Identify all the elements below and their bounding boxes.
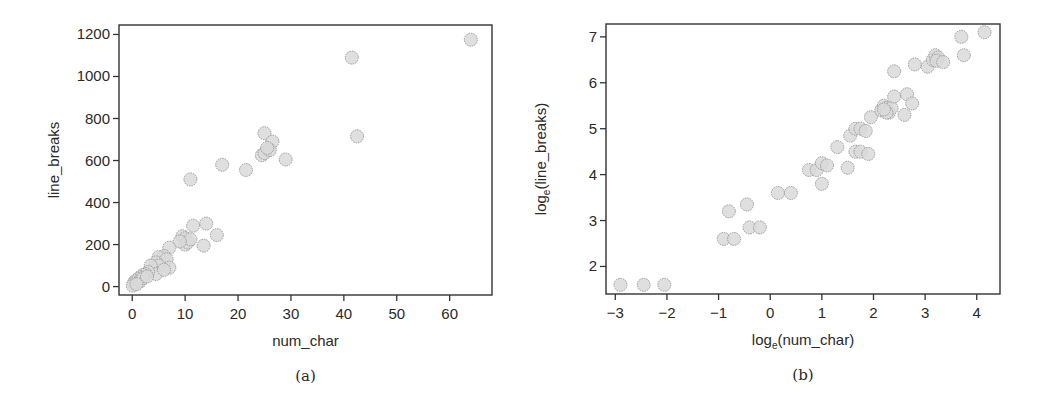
- data-point: [908, 58, 921, 71]
- figure-caption: (b): [792, 366, 813, 384]
- y-tick-label: 2: [589, 257, 597, 274]
- y-axis: 020040060080010001200: [77, 25, 119, 294]
- data-point: [771, 186, 784, 199]
- data-point: [815, 177, 828, 190]
- x-tick-label: 40: [336, 305, 353, 322]
- x-tick-label: 0: [766, 304, 774, 321]
- scatter-plot-a: 0102030405060020040060080010001200num_ch…: [0, 0, 520, 412]
- x-tick-label: 30: [283, 305, 300, 322]
- scatter-panel-a: 0102030405060020040060080010001200num_ch…: [0, 0, 520, 412]
- data-point: [784, 186, 797, 199]
- data-point: [898, 108, 911, 121]
- data-point: [862, 147, 875, 160]
- x-tick-label: 3: [921, 304, 929, 321]
- y-axis: 234567: [589, 28, 606, 275]
- data-point: [753, 221, 766, 234]
- data-point: [888, 90, 901, 103]
- data-point: [937, 56, 950, 69]
- y-axis-label: loge(line_breaks): [532, 103, 552, 215]
- data-point: [130, 278, 143, 291]
- data-point: [888, 65, 901, 78]
- data-point: [728, 232, 741, 245]
- data-point: [351, 130, 364, 143]
- y-tick-label: 600: [85, 152, 110, 169]
- x-tick-label: 0: [128, 305, 136, 322]
- x-tick-label: 1: [818, 304, 826, 321]
- data-point: [345, 51, 358, 64]
- data-point: [187, 219, 200, 232]
- data-point: [722, 205, 735, 218]
- x-tick-label: 4: [973, 304, 981, 321]
- y-tick-label: 7: [589, 28, 597, 45]
- data-point: [614, 278, 627, 291]
- plot-frame: [119, 25, 492, 295]
- figure-caption: (a): [295, 367, 316, 385]
- data-point: [261, 141, 274, 154]
- data-point: [210, 229, 223, 242]
- x-tick-label: 50: [388, 305, 405, 322]
- x-axis: 0102030405060: [128, 295, 458, 322]
- data-point: [197, 239, 210, 252]
- y-tick-label: 400: [85, 194, 110, 211]
- y-tick-label: 6: [589, 74, 597, 91]
- data-point: [279, 153, 292, 166]
- data-point: [906, 97, 919, 110]
- data-point: [740, 198, 753, 211]
- data-point: [877, 103, 890, 116]
- data-point: [831, 141, 844, 154]
- y-tick-label: 800: [85, 110, 110, 127]
- y-tick-label: 5: [589, 120, 597, 137]
- data-point: [184, 173, 197, 186]
- data-point: [464, 33, 477, 46]
- x-tick-label: 60: [441, 305, 458, 322]
- data-point: [141, 270, 154, 283]
- x-tick-label: −2: [658, 304, 675, 321]
- x-tick-label: 20: [230, 305, 247, 322]
- y-tick-label: 0: [102, 278, 110, 295]
- data-point: [978, 26, 991, 39]
- y-tick-label: 1000: [77, 67, 110, 84]
- data-point: [239, 163, 252, 176]
- x-tick-label: 2: [869, 304, 877, 321]
- scatter-plot-b: −3−2−101234234567loge(num_char)loge(line…: [520, 0, 1038, 412]
- y-tick-label: 1200: [77, 25, 110, 42]
- y-tick-label: 4: [589, 166, 597, 183]
- y-tick-label: 3: [589, 212, 597, 229]
- data-point: [200, 217, 213, 230]
- data-point: [841, 161, 854, 174]
- y-axis-label: line_breaks: [45, 122, 62, 199]
- data-point: [957, 49, 970, 62]
- x-axis: −3−2−101234: [607, 294, 981, 321]
- x-tick-label: −3: [607, 304, 624, 321]
- data-point: [821, 159, 834, 172]
- data-point: [157, 263, 170, 276]
- x-tick-label: 10: [177, 305, 194, 322]
- y-tick-label: 200: [85, 236, 110, 253]
- data-point: [216, 158, 229, 171]
- x-axis-label: loge(num_char): [752, 331, 854, 351]
- scatter-panel-b: −3−2−101234234567loge(num_char)loge(line…: [520, 0, 1038, 412]
- x-tick-label: −1: [710, 304, 727, 321]
- x-axis-label: num_char: [272, 332, 339, 349]
- data-point: [859, 124, 872, 137]
- data-point: [658, 278, 671, 291]
- data-point: [955, 30, 968, 43]
- data-point: [637, 278, 650, 291]
